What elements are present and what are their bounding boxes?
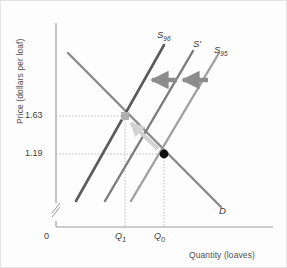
y-axis-title: Price (dollars per loaf) — [16, 26, 25, 136]
curve-label-s95-sub: 95 — [220, 50, 227, 57]
axis-break-icon — [52, 203, 60, 217]
axis-lines — [56, 23, 273, 227]
x-tick-q1-base: Q — [115, 231, 122, 241]
curve-label-s-prime: S' — [193, 39, 201, 49]
equilibrium-marker-original — [160, 150, 169, 159]
x-tick-q0-base: Q — [154, 231, 161, 241]
x-tick-label-q0: Q0 — [154, 232, 165, 243]
chart-canvas — [1, 1, 287, 268]
equilibrium-marker-new — [121, 112, 129, 120]
y-tick-label-119: 1.19 — [25, 149, 43, 158]
supply-curve-s95 — [131, 53, 219, 201]
origin-label: 0 — [44, 232, 49, 241]
x-axis-title: Quantity (loaves) — [189, 251, 255, 260]
curve-label-s95: S95 — [214, 45, 228, 57]
equilibrium-shift-arrow — [131, 123, 158, 149]
x-tick-label-q1: Q1 — [115, 232, 126, 243]
curve-label-s96-sub: 96 — [163, 35, 170, 42]
supply-demand-figure: Price (dollars per loaf) Quantity (loave… — [0, 0, 287, 268]
y-tick-label-163: 1.63 — [25, 111, 43, 120]
x-tick-q0-sub: 0 — [161, 235, 165, 244]
curve-label-demand: D — [219, 206, 226, 216]
demand-curve — [68, 53, 221, 207]
curve-label-s96: S96 — [157, 30, 171, 42]
x-tick-q1-sub: 1 — [122, 235, 126, 244]
